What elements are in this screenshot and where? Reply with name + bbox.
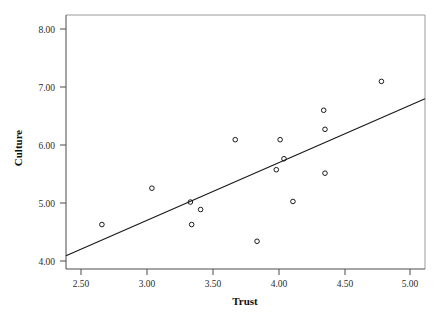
scatter-plot-figure: 2.50 3.00 3.50 4.00 4.50 5.00 4.00 5.00 … <box>0 0 448 318</box>
y-axis-title: Culture <box>12 130 24 167</box>
y-tick-label-3: 7.00 <box>38 83 55 93</box>
scatter-point <box>291 199 296 204</box>
y-tick-label-1: 5.00 <box>38 199 55 209</box>
scatter-point <box>150 186 155 191</box>
y-tick-label-0: 4.00 <box>38 257 55 267</box>
x-axis-ticks: 2.50 3.00 3.50 4.00 4.50 5.00 <box>73 269 419 289</box>
x-tick-label-5: 5.00 <box>402 279 419 289</box>
y-tick-label-2: 6.00 <box>38 141 55 151</box>
scatter-point <box>189 222 194 227</box>
scatter-point <box>198 207 203 212</box>
scatter-point <box>321 108 326 113</box>
regression-line <box>66 99 425 256</box>
x-tick-label-0: 2.50 <box>73 279 90 289</box>
x-axis-title: Trust <box>232 295 258 307</box>
x-tick-label-4: 4.50 <box>337 279 354 289</box>
scatter-point <box>255 239 260 244</box>
frame-left-bottom-axis <box>66 15 425 269</box>
scatter-point <box>323 171 328 176</box>
scatter-markers-group <box>100 79 384 244</box>
scatter-point <box>323 127 328 132</box>
y-axis-ticks: 4.00 5.00 6.00 7.00 8.00 <box>38 25 66 267</box>
x-tick-label-1: 3.00 <box>139 279 156 289</box>
scatter-point <box>379 79 384 84</box>
x-tick-label-3: 4.00 <box>271 279 288 289</box>
frame-top-right-border <box>66 15 425 269</box>
plot-frame <box>66 15 425 269</box>
scatter-point <box>274 167 279 172</box>
y-tick-label-4: 8.00 <box>38 25 55 35</box>
scatter-point <box>278 137 283 142</box>
x-tick-label-2: 3.50 <box>205 279 222 289</box>
scatter-point <box>233 137 238 142</box>
plot-canvas: 2.50 3.00 3.50 4.00 4.50 5.00 4.00 5.00 … <box>0 0 448 318</box>
scatter-point <box>100 222 105 227</box>
